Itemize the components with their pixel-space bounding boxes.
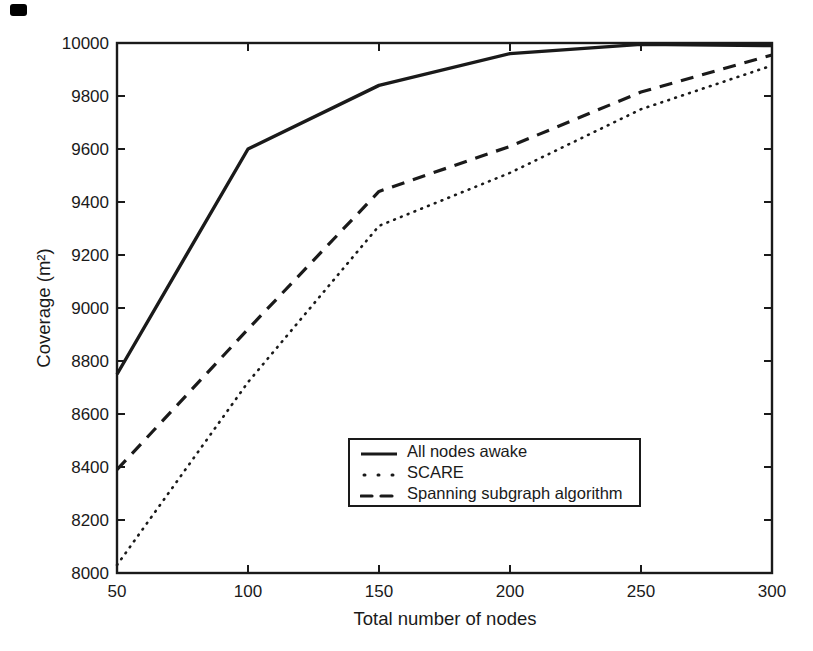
x-tick-label: 50	[108, 582, 127, 601]
legend-item-scare: SCARE	[350, 463, 639, 483]
y-tick-label: 8600	[71, 405, 109, 424]
legend-label: Spanning subgraph algorithm	[407, 484, 623, 503]
series-line-solid	[117, 44, 772, 374]
x-axis-label: Total number of nodes	[295, 608, 595, 630]
y-tick-label: 8000	[71, 564, 109, 583]
x-tick-label: 150	[365, 582, 393, 601]
y-tick-label: 10000	[62, 34, 109, 53]
y-tick-label: 9200	[71, 246, 109, 265]
legend-sample-svg	[360, 448, 398, 460]
x-tick-label: 250	[627, 582, 655, 601]
legend-item-spanning-subgraph: Spanning subgraph algorithm	[350, 484, 639, 504]
y-tick-label: 9000	[71, 299, 109, 318]
y-tick-label: 8200	[71, 511, 109, 530]
chart-canvas: 5010015020025030080008200840086008800900…	[0, 0, 813, 651]
y-axis-label: Coverage (m²)	[33, 208, 57, 408]
x-tick-label: 300	[758, 582, 786, 601]
series-line-dashed	[117, 55, 772, 470]
x-tick-label: 200	[496, 582, 524, 601]
legend-label: All nodes awake	[407, 442, 527, 461]
x-tick-label: 100	[234, 582, 262, 601]
y-tick-label: 8400	[71, 458, 109, 477]
legend-item-all-nodes-awake: All nodes awake	[350, 442, 639, 462]
y-tick-label: 9800	[71, 87, 109, 106]
legend-dashed-line-sample-icon	[360, 488, 398, 500]
legend-box: All nodes awake SCARE Spanning subgraph …	[348, 438, 641, 507]
chart-figure: 5010015020025030080008200840086008800900…	[0, 0, 813, 651]
y-tick-label: 8800	[71, 352, 109, 371]
legend-label: SCARE	[407, 463, 464, 482]
legend-sample-svg	[360, 469, 398, 481]
legend-solid-line-sample-icon	[360, 446, 398, 458]
legend-sample-svg	[360, 490, 398, 502]
y-tick-label: 9600	[71, 140, 109, 159]
y-tick-label: 9400	[71, 193, 109, 212]
legend-dotted-line-sample-icon	[360, 467, 398, 479]
